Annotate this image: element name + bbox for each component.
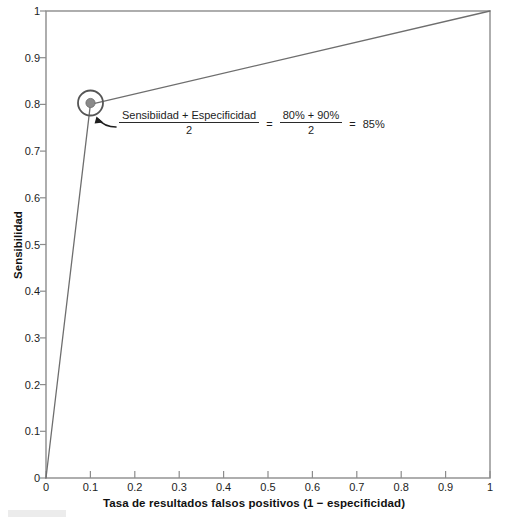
x-tick-label: 0.4: [216, 481, 231, 493]
scan-artifact: [8, 510, 66, 517]
y-tick-label: 0.2: [0, 379, 40, 391]
annotation-arrow-icon: [95, 117, 116, 128]
x-tick-label: 0.6: [305, 481, 320, 493]
y-tick-label: 1: [0, 5, 40, 17]
y-tick-label: 0.1: [0, 425, 40, 437]
x-tick-label: 0.2: [127, 481, 142, 493]
y-tick-label: 0.8: [0, 98, 40, 110]
x-tick-label: 0.3: [172, 481, 187, 493]
formula-numerator-left: Sensibiidad + Especificidad: [119, 109, 259, 123]
x-axis-ticks: [46, 471, 490, 478]
x-tick-label: 0.8: [394, 481, 409, 493]
y-tick-label: 0.9: [0, 52, 40, 64]
x-axis-title: Tasa de resultados falsos positivos (1 −…: [0, 497, 508, 509]
x-tick-label: 0.7: [349, 481, 364, 493]
y-tick-label: 0.3: [0, 332, 40, 344]
roc-chart: 0 0.1 0.2 0.3 0.4 0.5 0.6 0.7 0.8 0.9 1 …: [0, 0, 508, 519]
x-tick-label: 0.5: [260, 481, 275, 493]
x-tick-label: 0.9: [438, 481, 453, 493]
formula-numerator-right: 80% + 90%: [280, 109, 343, 123]
y-tick-label: 0.7: [0, 145, 40, 157]
formula-equals-2: =: [342, 118, 362, 130]
formula-denominator-left: 2: [186, 123, 192, 136]
annotation-formula: Sensibiidad + Especificidad 2 = 80% + 90…: [119, 109, 385, 137]
formula-fraction-right: 80% + 90% 2: [280, 109, 343, 137]
chart-plot-svg: [0, 0, 508, 519]
x-tick-label: 0.1: [83, 481, 98, 493]
y-tick-label: 0: [0, 472, 40, 484]
x-tick-label: 1: [487, 481, 493, 493]
roc-curve-line: [46, 11, 490, 478]
cutoff-point-marker: [78, 91, 103, 116]
y-axis-title: Sensibilidad: [12, 175, 24, 315]
formula-fraction-left: Sensibiidad + Especificidad 2: [119, 109, 259, 137]
y-axis-ticks: [40, 11, 46, 478]
formula-result: 85%: [363, 118, 385, 130]
formula-equals-1: =: [259, 118, 279, 130]
x-tick-label: 0: [43, 481, 49, 493]
plot-frame: [46, 11, 490, 478]
formula-denominator-right: 2: [308, 123, 314, 136]
